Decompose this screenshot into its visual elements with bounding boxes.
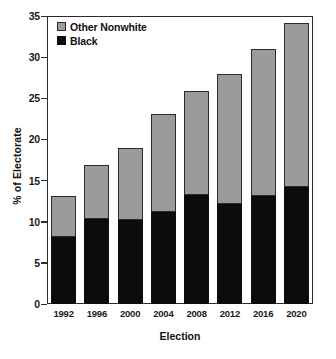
- y-axis-tick-mark: [41, 262, 47, 263]
- y-axis-tick: 35: [0, 10, 47, 22]
- y-axis-tick-label: 25: [29, 92, 40, 104]
- y-axis-tick-mark: [41, 139, 47, 140]
- y-axis-tick-label: 15: [29, 175, 40, 187]
- y-axis-tick-label: 20: [29, 133, 40, 145]
- y-axis-tick: 25: [0, 92, 47, 104]
- y-axis-tick: 0: [0, 298, 47, 310]
- y-axis-tick-label: 10: [29, 216, 40, 228]
- y-axis-tick-mark: [41, 57, 47, 58]
- y-axis-tick: 15: [0, 175, 47, 187]
- legend-item-label: Other Nonwhite: [70, 21, 147, 33]
- y-axis-tick: 5: [0, 257, 47, 269]
- y-axis-tick-label: 30: [29, 51, 40, 63]
- legend-item-label: Black: [70, 35, 98, 47]
- y-axis-tick-label: 5: [34, 257, 40, 269]
- y-axis-tick-mark: [41, 221, 47, 222]
- legend-item: Black: [57, 34, 147, 47]
- y-axis-tick-mark: [41, 180, 47, 181]
- legend-item: Other Nonwhite: [57, 20, 147, 33]
- legend-swatch: [57, 22, 66, 31]
- y-axis-tick-mark: [41, 98, 47, 99]
- y-axis-tick-mark: [41, 304, 47, 305]
- y-axis-tick: 10: [0, 216, 47, 228]
- y-axis-tick: 30: [0, 51, 47, 63]
- y-axis-tick-label: 35: [29, 10, 40, 22]
- y-axis: % of Electorate 05101520253035: [0, 0, 47, 359]
- plot-area: [47, 16, 313, 304]
- stacked-bar-chart: % of Electorate 05101520253035 Election …: [0, 0, 336, 359]
- x-axis-title: Election: [47, 330, 313, 342]
- x-axis-tick-label: 2020: [276, 308, 316, 319]
- y-axis-tick: 20: [0, 133, 47, 145]
- y-axis-tick-mark: [41, 16, 47, 17]
- legend-swatch: [57, 36, 66, 45]
- chart-legend: Other NonwhiteBlack: [57, 20, 147, 48]
- y-axis-tick-label: 0: [34, 298, 40, 310]
